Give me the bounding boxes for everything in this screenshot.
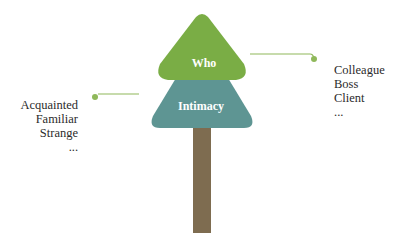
list-item: Strange xyxy=(14,126,78,140)
list-item: Colleague xyxy=(334,63,385,77)
intimacy-label: Intimacy xyxy=(161,99,241,114)
who-examples-list: Colleague Boss Client ... xyxy=(334,63,385,119)
list-item: Client xyxy=(334,91,385,105)
list-item: Familiar xyxy=(14,112,78,126)
left-connector-dot xyxy=(92,94,98,100)
intimacy-examples-list: Acquainted Familiar Strange ... xyxy=(14,98,78,154)
who-label: Who xyxy=(164,56,244,71)
list-item: Acquainted xyxy=(14,98,78,112)
tree-trunk xyxy=(193,127,211,233)
list-item: ... xyxy=(14,140,78,154)
right-connector-dot xyxy=(311,56,317,62)
list-item: ... xyxy=(334,105,385,119)
list-item: Boss xyxy=(334,77,385,91)
